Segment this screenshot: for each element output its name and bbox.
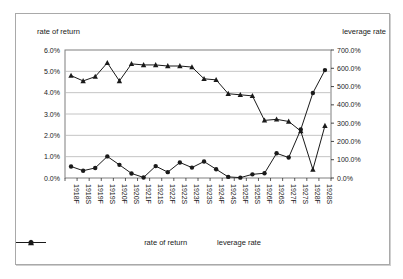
x-axis-category-label: 1918S: [85, 184, 92, 205]
x-axis-category-label: 1919S: [109, 184, 116, 205]
legend-label: rate of return: [144, 238, 187, 247]
legend-item-leverage-rate: leverage rate: [217, 238, 261, 247]
x-axis-category-label: 1925F: [242, 184, 249, 204]
left-axis-tick-label: 5.0%: [44, 68, 60, 75]
x-axis-category-label: 1919F: [97, 184, 104, 204]
x-axis-category-label: 1921S: [157, 184, 164, 205]
right-axis-tick-label: 0.0%: [337, 175, 353, 182]
right-axis-tick-label: 200.0%: [337, 138, 361, 145]
left-axis-tick-label: 6.0%: [44, 47, 60, 54]
chart-legend: rate of return leverage rate: [16, 238, 389, 247]
right-axis-tick-label: 500.0%: [337, 83, 361, 90]
data-point-circle: [93, 166, 97, 170]
data-point-circle: [323, 68, 327, 72]
x-axis-category-label: 1921F: [145, 184, 152, 204]
x-axis-category-label: 1918F: [73, 184, 80, 204]
x-axis-category-label: 1920S: [133, 184, 140, 205]
data-point-circle: [214, 167, 218, 171]
chart-screenshot: rate of return leverage rate 6.0%5.0%4.0…: [0, 0, 403, 279]
legend-swatch-circle: [16, 238, 46, 247]
left-axis-tick-label: 2.0%: [44, 132, 60, 139]
x-axis-category-label: 1924F: [218, 184, 225, 204]
data-point-circle: [178, 160, 182, 164]
x-axis-category-label: 1926S: [278, 184, 285, 205]
data-point-circle: [202, 159, 206, 163]
x-axis-category-label: 1927S: [302, 184, 309, 205]
data-point-circle: [69, 164, 73, 168]
data-point-circle: [286, 155, 290, 159]
data-point-circle: [190, 165, 194, 169]
data-point-circle: [105, 154, 109, 158]
data-point-circle: [153, 164, 157, 168]
data-point-circle: [129, 171, 133, 175]
x-axis-category-label: 1923S: [206, 184, 213, 205]
x-axis-category-label: 1928S: [326, 184, 333, 205]
plot-svg: 6.0%5.0%4.0%3.0%2.0%1.0%0.0%700.0%600.0%…: [16, 14, 389, 236]
right-axis-tick-label: 700.0%: [337, 47, 361, 54]
legend-item-rate-of-return: rate of return: [144, 238, 187, 247]
data-point-circle: [117, 163, 121, 167]
x-axis-category-label: 1922S: [181, 184, 188, 205]
data-point-circle: [238, 175, 242, 179]
chart-frame: rate of return leverage rate 6.0%5.0%4.0…: [15, 13, 390, 265]
data-point-circle: [166, 170, 170, 174]
data-point-circle: [81, 168, 85, 172]
right-axis-tick-label: 100.0%: [337, 156, 361, 163]
x-axis-category-label: 1928F: [314, 184, 321, 204]
data-point-circle: [299, 127, 303, 131]
data-point-circle: [262, 171, 266, 175]
left-axis-tick-label: 4.0%: [44, 89, 60, 96]
x-axis-category-label: 1920F: [121, 184, 128, 204]
data-point-circle: [250, 172, 254, 176]
x-axis-category-label: 1923F: [193, 184, 200, 204]
right-axis-tick-label: 300.0%: [337, 120, 361, 127]
data-point-circle: [226, 175, 230, 179]
left-axis-tick-label: 1.0%: [44, 153, 60, 160]
data-point-circle: [141, 175, 145, 179]
right-axis-tick-label: 400.0%: [337, 101, 361, 108]
circle-marker-icon: [29, 240, 34, 245]
x-axis-category-label: 1922F: [169, 184, 176, 204]
x-axis-category-label: 1926F: [266, 184, 273, 204]
data-point-circle: [311, 91, 315, 95]
x-axis-category-label: 1927F: [290, 184, 297, 204]
right-axis-tick-label: 600.0%: [337, 65, 361, 72]
legend-label: leverage rate: [217, 238, 261, 247]
data-point-circle: [274, 151, 278, 155]
x-axis-category-label: 1924S: [230, 184, 237, 205]
x-axis-category-label: 1925S: [254, 184, 261, 205]
left-axis-tick-label: 0.0%: [44, 175, 60, 182]
left-axis-tick-label: 3.0%: [44, 111, 60, 118]
